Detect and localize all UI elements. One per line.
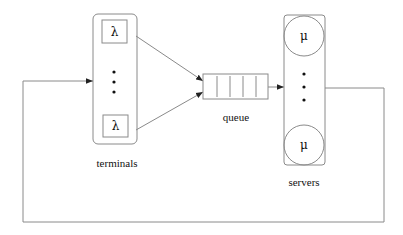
terminal-dot-3 (112, 90, 115, 93)
terminal-rate-bottom: λ (112, 119, 120, 133)
queue-label: queue (223, 111, 249, 123)
servers-label: servers (288, 176, 319, 188)
server-dot-2 (302, 85, 305, 88)
terminal-dot-1 (112, 70, 115, 73)
server-rate-top: μ (300, 29, 308, 43)
terminals-label: terminals (97, 157, 138, 169)
servers-node: μ μ servers (284, 15, 325, 188)
edge-terminal-bottom-to-queue (136, 92, 203, 130)
queue-node: queue (203, 74, 268, 123)
server-dot-1 (302, 72, 305, 75)
edge-terminal-top-to-queue (136, 36, 203, 81)
terminal-rate-top: λ (111, 25, 119, 39)
queueing-diagram: λ λ terminals queue μ μ servers (0, 0, 403, 235)
terminals-node: λ λ terminals (93, 14, 137, 169)
edge-feedback-loop (23, 81, 384, 222)
server-rate-bottom: μ (300, 138, 308, 152)
queue-buffer (203, 74, 268, 99)
terminal-dot-2 (112, 80, 115, 83)
server-dot-3 (302, 98, 305, 101)
